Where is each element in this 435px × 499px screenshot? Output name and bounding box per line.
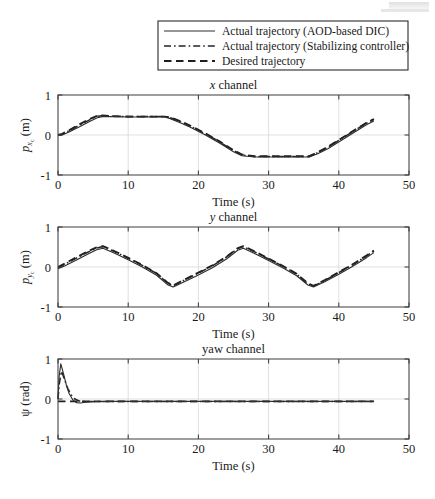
y-tick-label: 1 bbox=[45, 89, 51, 103]
x-axis-label: Time (s) bbox=[212, 195, 254, 209]
x-tick-label: 10 bbox=[122, 442, 135, 456]
y-tick-label: 0 bbox=[45, 129, 51, 143]
gridlines bbox=[58, 359, 409, 439]
y-tick-label: -1 bbox=[41, 169, 51, 183]
y-axis: -101 bbox=[41, 353, 409, 447]
y-tick-label: -1 bbox=[41, 301, 51, 315]
figure-root: Actual trajectory (AOD-based DIC)Actual … bbox=[0, 0, 435, 499]
gridlines bbox=[58, 227, 409, 307]
x-tick-label: 20 bbox=[192, 178, 205, 192]
x-axis-label: Time (s) bbox=[212, 459, 254, 473]
y-label-base: ψ bbox=[18, 409, 32, 417]
title-rest: channel bbox=[215, 78, 258, 92]
series-line-dashdot bbox=[58, 371, 374, 401]
y-axis: -101 bbox=[41, 221, 409, 315]
x-tick-label: 30 bbox=[262, 178, 275, 192]
legend-label: Actual trajectory (Stabilizing controlle… bbox=[222, 40, 409, 53]
y-label-base: p bbox=[18, 278, 32, 285]
x-tick-label: 20 bbox=[192, 442, 205, 456]
title-rest: channel bbox=[215, 210, 258, 224]
x-tick-label: 10 bbox=[122, 178, 135, 192]
x-axis: 01020304050 bbox=[55, 95, 415, 192]
x-tick-label: 40 bbox=[333, 442, 346, 456]
subplot-title: yaw channel bbox=[202, 342, 265, 356]
y-tick-label: 1 bbox=[45, 353, 51, 367]
x-tick-label: 0 bbox=[55, 178, 61, 192]
y-label-unit: (m) bbox=[18, 250, 32, 271]
x-tick-label: 40 bbox=[333, 310, 346, 324]
subplot-title: x channel bbox=[209, 78, 258, 92]
y-label-unit: (rad) bbox=[18, 381, 32, 408]
x-tick-label: 30 bbox=[262, 310, 275, 324]
x-tick-label: 20 bbox=[192, 310, 205, 324]
legend-label: Desired trajectory bbox=[222, 55, 306, 68]
y-axis-label: pyc (m) bbox=[18, 250, 35, 285]
x-tick-label: 10 bbox=[122, 310, 135, 324]
x-tick-label: 50 bbox=[403, 442, 416, 456]
subplot-x-channel: 01020304050-101x channelTime (s)pxc (m) bbox=[18, 78, 415, 209]
x-tick-label: 30 bbox=[262, 442, 275, 456]
y-tick-label: 1 bbox=[45, 221, 51, 235]
y-label-base: p bbox=[18, 146, 32, 153]
subplot-yaw-channel: 01020304050-101yaw channelTime (s)ψ (rad… bbox=[18, 342, 415, 473]
series-group bbox=[58, 246, 374, 287]
x-tick-label: 50 bbox=[403, 178, 416, 192]
x-axis-label: Time (s) bbox=[212, 327, 254, 341]
series-group bbox=[58, 364, 374, 403]
y-tick-label: 0 bbox=[45, 393, 51, 407]
series-line-solid bbox=[58, 248, 374, 287]
x-tick-label: 0 bbox=[55, 442, 61, 456]
x-tick-label: 0 bbox=[55, 310, 61, 324]
y-tick-label: 0 bbox=[45, 261, 51, 275]
x-axis: 01020304050 bbox=[55, 359, 415, 456]
y-axis: -101 bbox=[41, 89, 409, 183]
legend: Actual trajectory (AOD-based DIC)Actual … bbox=[158, 21, 409, 70]
subplot-y-channel: 01020304050-101y channelTime (s)pyc (m) bbox=[18, 210, 415, 341]
y-label-unit: (m) bbox=[18, 118, 32, 139]
page-edge-artifact bbox=[389, 2, 429, 9]
y-axis-label: pxc (m) bbox=[18, 118, 35, 153]
y-axis-label: ψ (rad) bbox=[18, 381, 32, 416]
series-group bbox=[58, 115, 374, 157]
y-tick-label: -1 bbox=[41, 433, 51, 447]
trajectory-tracking-figure: Actual trajectory (AOD-based DIC)Actual … bbox=[0, 0, 435, 499]
x-tick-label: 40 bbox=[333, 178, 346, 192]
series-line-dashdot bbox=[58, 116, 374, 157]
subplot-title: y channel bbox=[208, 210, 258, 224]
legend-label: Actual trajectory (AOD-based DIC) bbox=[222, 25, 389, 38]
x-tick-label: 50 bbox=[403, 310, 416, 324]
series-line-solid bbox=[58, 364, 374, 403]
x-axis: 01020304050 bbox=[55, 227, 415, 324]
gridlines bbox=[58, 95, 409, 175]
series-line-solid bbox=[58, 117, 374, 157]
page-edge-artifact-secondary bbox=[381, 9, 429, 12]
